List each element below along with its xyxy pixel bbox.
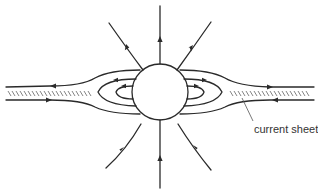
right-closed-loops: [184, 78, 222, 106]
field-line-diagram: [0, 0, 318, 195]
current-sheet-label: current sheet: [254, 124, 318, 135]
lower-radial-field-lines: [106, 120, 211, 188]
left-current-sheet-hatching: [8, 91, 91, 96]
central-body: [132, 64, 188, 120]
left-closed-loops: [98, 78, 136, 106]
upper-radial-field-lines: [109, 6, 211, 70]
right-current-sheet-hatching: [230, 91, 309, 96]
